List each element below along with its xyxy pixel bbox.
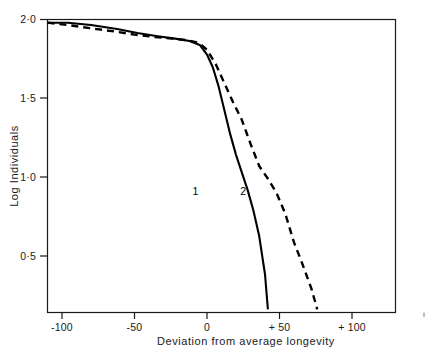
figure-container: 2·0 1·5 1·0 0·5 -100 -50 0 + 50 + 100 De… [0,0,446,357]
curve-annotations: 12 [192,185,246,197]
curve-label-2: 2 [240,185,246,197]
y-axis-ticks [40,20,48,257]
y-tick-label-0: 0·5 [20,250,36,262]
curve-label-1: 1 [192,185,198,197]
chart-canvas: 2·0 1·5 1·0 0·5 -100 -50 0 + 50 + 100 De… [0,0,446,357]
x-axis-ticks [62,313,424,320]
x-tick-label-4: + 100 [338,321,366,333]
y-tick-label-3: 2·0 [20,13,36,25]
x-tick-label-2: 0 [204,321,210,333]
x-tick-label-0: -100 [51,321,73,333]
data-curve-2 [48,23,318,310]
x-tick-label-3: + 50 [269,321,291,333]
x-tick-label-1: -50 [127,321,143,333]
data-curve-1 [48,23,268,310]
y-tick-label-2: 1·5 [20,92,36,104]
plot-frame [48,20,396,313]
y-tick-label-1: 1·0 [20,171,36,183]
y-axis-title: Log Individuals [8,125,20,207]
cut-off-caption [14,345,314,357]
